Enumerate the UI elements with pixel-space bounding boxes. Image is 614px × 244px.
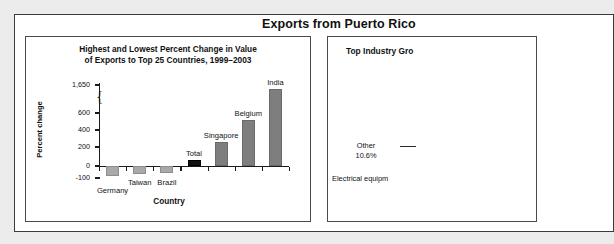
x-axis-label: Country	[26, 197, 312, 206]
x-tick-mark	[289, 167, 290, 171]
bar-chart-panel: Highest and Lowest Percent Change in Val…	[25, 36, 311, 222]
x-tick-mark	[235, 167, 236, 171]
x-tick-mark	[126, 167, 127, 171]
bar-india	[269, 89, 282, 166]
report-title: Exports from Puerto Rico	[262, 17, 416, 31]
bar-label-singapore: Singapore	[191, 131, 251, 140]
pie-leader-line	[400, 146, 416, 147]
bar-label-brazil: Brazil	[137, 178, 197, 187]
bar-label-total: Total	[164, 149, 224, 158]
y-tick-label: 0	[48, 161, 90, 170]
bar-germany	[106, 166, 119, 176]
axis-break-icon: {	[96, 89, 103, 104]
x-tick-mark	[153, 167, 154, 171]
pie-chart-title: Top Industry Gro	[346, 46, 536, 57]
x-tick-mark	[208, 167, 209, 171]
x-tick-mark	[180, 167, 181, 171]
bar-label-india: India	[245, 78, 305, 87]
pie-label-other-name: Other	[336, 141, 396, 151]
pie-label-other: Other 10.6%	[336, 141, 396, 160]
bar-chart-plot: Percent change Country { -10002004006001…	[26, 37, 312, 223]
y-tick-mark	[95, 146, 100, 147]
y-tick-label: 200	[48, 142, 90, 151]
y-axis-label: Percent change	[35, 92, 44, 168]
bar-brazil	[160, 166, 173, 173]
y-tick-label: 600	[48, 108, 90, 117]
pie-label-electrical: Electrical equipm	[332, 174, 388, 184]
x-tick-mark	[99, 167, 100, 171]
y-tick-mark	[95, 177, 100, 178]
y-tick-label: 1,650	[48, 80, 90, 89]
y-tick-label: 400	[48, 125, 90, 134]
y-tick-mark	[95, 84, 100, 85]
pie-chart-panel: Top Industry Gro Other 10.6% Electrical …	[327, 36, 537, 222]
pie-label-other-value: 10.6%	[336, 151, 396, 161]
y-tick-mark	[95, 112, 100, 113]
bar-label-belgium: Belgium	[218, 109, 278, 118]
y-tick-mark	[95, 129, 100, 130]
bar-label-germany: Germany	[83, 186, 143, 195]
y-tick-label: -100	[48, 173, 90, 182]
x-tick-mark	[262, 167, 263, 171]
bar-taiwan	[133, 166, 146, 174]
bar-total	[188, 160, 201, 166]
x-axis-line	[99, 166, 289, 167]
bar-belgium	[242, 120, 255, 166]
